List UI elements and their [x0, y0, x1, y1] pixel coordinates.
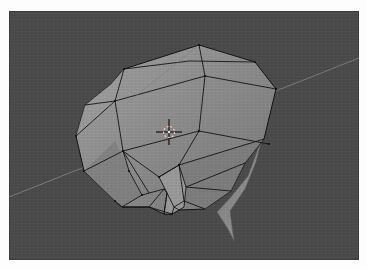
viewport-canvas[interactable] [9, 11, 359, 260]
screenshot-page [0, 0, 367, 269]
3d-viewport[interactable] [9, 11, 359, 260]
